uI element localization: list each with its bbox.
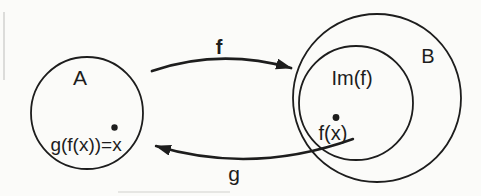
point-x-dot — [111, 124, 117, 130]
point-fx-dot — [333, 114, 340, 121]
point-x-equation-label: g(f(x))=x — [50, 134, 122, 155]
function-composition-diagram: A B Im(f) f(x) g(f(x))=x f g — [0, 0, 481, 196]
point-fx-label: f(x) — [319, 122, 348, 144]
arrow-f — [152, 59, 291, 71]
diagram-canvas: A B Im(f) f(x) g(f(x))=x f g — [0, 0, 481, 196]
arrow-f-label: f — [216, 36, 223, 58]
image-of-f-label: Im(f) — [331, 67, 372, 89]
set-a-label: A — [73, 66, 87, 89]
arrow-g-label: g — [228, 162, 240, 185]
set-b-label: B — [421, 45, 434, 67]
image-of-f-circle — [299, 46, 413, 160]
